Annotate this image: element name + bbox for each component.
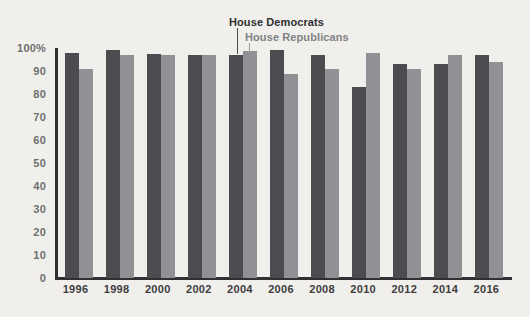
bar-group-2012 [393, 48, 421, 278]
bar-2006-democrats [270, 50, 284, 278]
leader-line-house-republicans [249, 43, 250, 54]
bar-2010-republicans [366, 53, 380, 278]
bar-2002-republicans [202, 55, 216, 278]
bar-group-2010 [352, 48, 380, 278]
y-axis-tick-80: 80 [33, 88, 46, 100]
bar-1996-republicans [79, 69, 93, 278]
y-axis-tick-0: 0 [40, 272, 46, 284]
bar-2012-republicans [407, 69, 421, 278]
bar-2016-democrats [475, 55, 489, 278]
bar-2004-democrats [229, 55, 243, 278]
bar-1998-democrats [106, 50, 120, 278]
bar-group-2006 [270, 48, 298, 278]
y-axis-tick-70: 70 [33, 111, 46, 123]
x-axis-tick-2014: 2014 [425, 283, 466, 295]
bar-2000-republicans [161, 55, 175, 278]
x-axis-tick-2008: 2008 [302, 283, 343, 295]
bar-1998-republicans [120, 55, 134, 278]
x-axis-tick-1998: 1998 [96, 283, 137, 295]
y-axis-tick-90: 90 [33, 65, 46, 77]
bar-group-2014 [434, 48, 462, 278]
bar-2014-democrats [434, 64, 448, 278]
x-axis-tick-2012: 2012 [384, 283, 425, 295]
x-axis-tick-2004: 2004 [219, 283, 260, 295]
y-axis-tick-50: 50 [33, 157, 46, 169]
x-axis-tick-2010: 2010 [343, 283, 384, 295]
bar-group-2002 [188, 48, 216, 278]
bar-1996-democrats [65, 53, 79, 278]
bar-2010-democrats [352, 87, 366, 278]
x-axis-tick-2000: 2000 [137, 283, 178, 295]
x-axis-tick-2016: 2016 [466, 283, 507, 295]
x-axis-tick-2002: 2002 [178, 283, 219, 295]
bar-2014-republicans [448, 55, 462, 278]
y-axis-tick-20: 20 [33, 226, 46, 238]
y-axis: 0102030405060708090100% [0, 42, 52, 284]
y-axis-tick-40: 40 [33, 180, 46, 192]
bar-2012-democrats [393, 64, 407, 278]
legend-label-house-republicans: House Republicans [245, 31, 349, 43]
x-axis-tick-1996: 1996 [55, 283, 96, 295]
legend-label-house-democrats: House Democrats [229, 16, 324, 28]
leader-line-house-democrats [237, 28, 238, 54]
bar-2002-democrats [188, 55, 202, 278]
bar-2008-republicans [325, 69, 339, 278]
bar-2006-republicans [284, 74, 298, 278]
x-axis-tick-2006: 2006 [260, 283, 301, 295]
y-axis-tick-10: 10 [33, 249, 46, 261]
bar-group-1996 [65, 48, 93, 278]
bar-group-2008 [311, 48, 339, 278]
bar-group-1998 [106, 48, 134, 278]
bar-group-2016 [475, 48, 503, 278]
y-axis-tick-100: 100% [17, 42, 46, 54]
bar-2008-democrats [311, 55, 325, 278]
bar-2016-republicans [489, 62, 503, 278]
x-axis: 1996199820002002200420062008201020122014… [55, 283, 512, 305]
bar-group-2004 [229, 48, 257, 278]
bar-2004-republicans [243, 51, 257, 278]
bar-2000-democrats [147, 54, 161, 278]
bar-group-2000 [147, 48, 175, 278]
plot-area [58, 48, 510, 278]
y-axis-tick-60: 60 [33, 134, 46, 146]
y-axis-tick-30: 30 [33, 203, 46, 215]
bar-chart: 0102030405060708090100% 1996199820002002… [0, 0, 530, 317]
